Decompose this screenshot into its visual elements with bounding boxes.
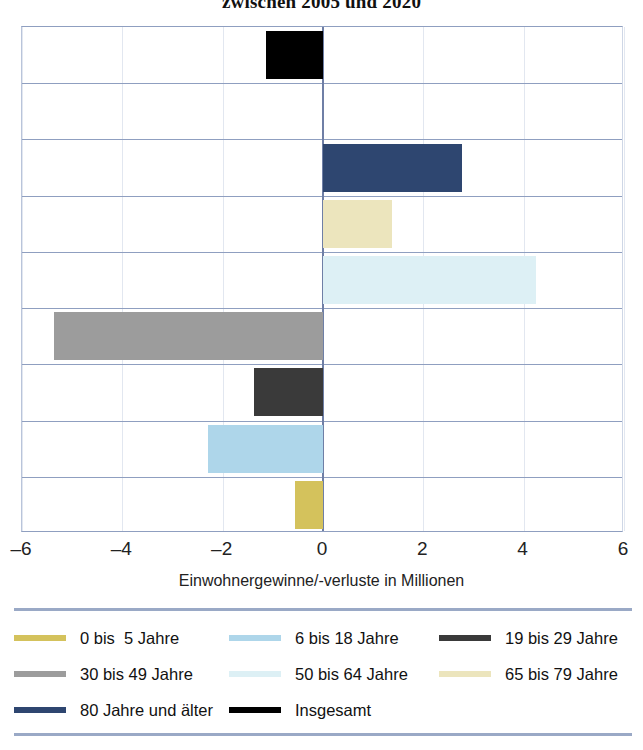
chart-title: zwischen 2005 und 2020 — [0, 0, 643, 13]
legend-row: 80 Jahre und älterInsgesamt — [14, 692, 632, 728]
legend-swatch-icon — [439, 671, 491, 677]
legend-item[interactable]: 80 Jahre und älter — [14, 701, 229, 720]
vertical-gridline — [624, 27, 625, 531]
legend-label: 30 bis 49 Jahre — [80, 665, 193, 684]
legend-item[interactable]: 19 bis 29 Jahre — [439, 629, 632, 648]
legend-label: 65 bis 79 Jahre — [505, 665, 618, 684]
legend-swatch-icon — [439, 635, 491, 641]
x-tick-label: 6 — [593, 538, 643, 560]
legend-item[interactable]: 0 bis 5 Jahre — [14, 629, 229, 648]
legend-row: 30 bis 49 Jahre50 bis 64 Jahre65 bis 79 … — [14, 656, 632, 692]
chart-legend: 0 bis 5 Jahre6 bis 18 Jahre19 bis 29 Jah… — [14, 608, 632, 736]
legend-item[interactable]: 65 bis 79 Jahre — [439, 665, 632, 684]
legend-row: 0 bis 5 Jahre6 bis 18 Jahre19 bis 29 Jah… — [14, 620, 632, 656]
bar-6-bis-18-jahre — [208, 425, 323, 473]
legend-swatch-icon — [229, 707, 281, 713]
x-tick-label: –4 — [91, 538, 151, 560]
bar-19-bis-29-jahre — [254, 368, 323, 416]
legend-swatch-icon — [14, 707, 66, 713]
x-tick-label: –6 — [0, 538, 51, 560]
legend-label: 6 bis 18 Jahre — [295, 629, 399, 648]
bar-30-bis-49-jahre — [54, 312, 323, 360]
x-tick-label: 0 — [292, 538, 352, 560]
legend-item[interactable]: Insgesamt — [229, 701, 439, 720]
plot-area — [21, 26, 623, 532]
legend-label: Insgesamt — [295, 701, 371, 720]
bar-insgesamt — [266, 31, 323, 79]
legend-swatch-icon — [229, 635, 281, 641]
legend-item[interactable]: 6 bis 18 Jahre — [229, 629, 439, 648]
bar-65-bis-79-jahre — [323, 200, 392, 248]
legend-label: 50 bis 64 Jahre — [295, 665, 408, 684]
x-axis-title: Einwohnergewinne/-verluste in Millionen — [0, 572, 643, 590]
bar-0-bis-5-jahre — [295, 481, 323, 529]
vertical-gridline — [22, 27, 23, 531]
x-tick-label: 2 — [392, 538, 452, 560]
legend-item[interactable]: 50 bis 64 Jahre — [229, 665, 439, 684]
x-tick-label: 4 — [493, 538, 553, 560]
legend-swatch-icon — [229, 671, 281, 677]
legend-swatch-icon — [14, 635, 66, 641]
bar-50-bis-64-jahre — [323, 256, 536, 304]
legend-label: 80 Jahre und älter — [80, 701, 213, 720]
bar-80-jahre-und-aelter — [323, 144, 462, 192]
vertical-gridline — [122, 27, 123, 531]
chart-root: zwischen 2005 und 2020 –6–4–20246 Einwoh… — [0, 0, 643, 750]
legend-label: 19 bis 29 Jahre — [505, 629, 618, 648]
legend-swatch-icon — [14, 671, 66, 677]
legend-label: 0 bis 5 Jahre — [80, 629, 179, 648]
x-tick-label: –2 — [192, 538, 252, 560]
legend-item[interactable]: 30 bis 49 Jahre — [14, 665, 229, 684]
